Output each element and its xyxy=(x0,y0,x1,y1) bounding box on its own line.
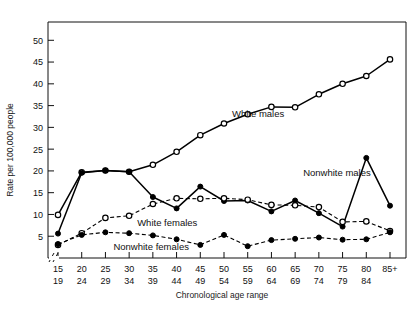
y-tick-label: 20 xyxy=(33,166,43,176)
x-tick-label-bottom: 39 xyxy=(148,276,158,286)
data-point xyxy=(269,238,274,243)
y-axis-ticks: 5101520253035404550 xyxy=(33,36,54,242)
data-point xyxy=(56,242,61,247)
y-tick-label: 40 xyxy=(33,79,43,89)
y-tick-label: 45 xyxy=(33,57,43,67)
data-point xyxy=(221,121,226,126)
data-point xyxy=(56,231,61,236)
line-chart-canvas: 5101520253035404550 15192024252930343539… xyxy=(0,0,420,309)
data-point xyxy=(174,206,179,211)
x-tick-label-bottom: 34 xyxy=(124,276,134,286)
x-tick-label-top: 80 xyxy=(361,264,371,274)
data-point xyxy=(126,213,131,218)
x-tick-label-top: 35 xyxy=(148,264,158,274)
x-tick-label-top: 75 xyxy=(338,264,348,274)
data-point xyxy=(364,155,369,160)
x-tick-label-top: 50 xyxy=(219,264,229,274)
series-layer xyxy=(55,57,392,249)
x-tick-label-top: 40 xyxy=(172,264,182,274)
data-point xyxy=(150,195,155,200)
data-point xyxy=(79,232,84,237)
data-point xyxy=(340,219,345,224)
x-tick-label-top: 30 xyxy=(124,264,134,274)
data-point xyxy=(316,204,321,209)
data-point xyxy=(269,202,274,207)
axis-break-mark xyxy=(49,253,59,262)
x-axis-ticks: 1519202425293034353940444549505455596064… xyxy=(53,252,398,286)
data-point xyxy=(150,201,155,206)
data-point xyxy=(293,236,298,241)
x-tick-label-top: 60 xyxy=(266,264,276,274)
nonwhite-females-label: Nonwhite females xyxy=(113,241,189,252)
x-tick-label-bottom: 84 xyxy=(361,276,371,286)
x-tick-label-top: 85+ xyxy=(382,264,397,274)
white-males-label: White males xyxy=(232,108,285,119)
data-point xyxy=(221,196,226,201)
data-point xyxy=(55,212,60,217)
y-tick-label: 10 xyxy=(33,210,43,220)
series-nonwhite-females xyxy=(56,230,393,249)
data-point xyxy=(292,203,297,208)
plot-frame xyxy=(48,22,406,258)
data-point xyxy=(103,168,108,173)
data-point xyxy=(103,230,108,235)
data-point xyxy=(198,196,203,201)
y-tick-label: 30 xyxy=(33,123,43,133)
data-point xyxy=(292,105,297,110)
data-point xyxy=(127,169,132,174)
data-point xyxy=(316,211,321,216)
x-tick-label-top: 15 xyxy=(53,264,63,274)
y-tick-label: 35 xyxy=(33,101,43,111)
x-tick-label-bottom: 44 xyxy=(172,276,182,286)
x-tick-label-bottom: 54 xyxy=(219,276,229,286)
data-point xyxy=(174,196,179,201)
x-tick-label-bottom: 74 xyxy=(314,276,324,286)
data-point xyxy=(222,232,227,237)
data-point xyxy=(174,149,179,154)
y-axis-title: Rate per 100,000 people xyxy=(5,103,15,197)
data-point xyxy=(388,203,393,208)
data-point xyxy=(316,235,321,240)
x-tick-label-top: 45 xyxy=(195,264,205,274)
x-tick-label-bottom: 79 xyxy=(338,276,348,286)
series-white-males xyxy=(55,57,392,218)
data-point xyxy=(364,73,369,78)
x-tick-label-bottom: 59 xyxy=(243,276,253,286)
data-point xyxy=(198,184,203,189)
chart-figure: 5101520253035404550 15192024252930343539… xyxy=(0,0,420,309)
data-point xyxy=(388,230,393,235)
data-point xyxy=(103,215,108,220)
data-point xyxy=(127,231,132,236)
data-point xyxy=(387,57,392,62)
y-tick-label: 25 xyxy=(33,145,43,155)
white-females-label: White females xyxy=(137,217,197,228)
data-point xyxy=(340,81,345,86)
nonwhite-males-label: Nonwhite males xyxy=(303,167,371,178)
data-point xyxy=(150,233,155,238)
y-tick-label: 50 xyxy=(33,36,43,46)
x-tick-label-top: 55 xyxy=(243,264,253,274)
x-tick-label-bottom: 49 xyxy=(195,276,205,286)
data-point xyxy=(150,162,155,167)
x-tick-label-top: 70 xyxy=(314,264,324,274)
y-tick-label: 5 xyxy=(38,232,43,242)
x-tick-label-bottom: 29 xyxy=(100,276,110,286)
data-point xyxy=(245,244,250,249)
data-point xyxy=(364,219,369,224)
x-axis-title: Chronological age range xyxy=(176,290,269,300)
data-point xyxy=(198,133,203,138)
data-point xyxy=(269,209,274,214)
x-tick-label-top: 25 xyxy=(100,264,110,274)
y-tick-label: 15 xyxy=(33,188,43,198)
x-tick-label-bottom: 69 xyxy=(290,276,300,286)
data-point xyxy=(198,242,203,247)
data-point xyxy=(340,237,345,242)
data-point xyxy=(316,92,321,97)
x-tick-label-bottom: 19 xyxy=(53,276,63,286)
x-tick-label-bottom: 24 xyxy=(77,276,87,286)
x-tick-label-top: 65 xyxy=(290,264,300,274)
x-tick-label-bottom: 64 xyxy=(266,276,276,286)
x-tick-label-top: 20 xyxy=(77,264,87,274)
data-point xyxy=(364,237,369,242)
data-point xyxy=(245,197,250,202)
